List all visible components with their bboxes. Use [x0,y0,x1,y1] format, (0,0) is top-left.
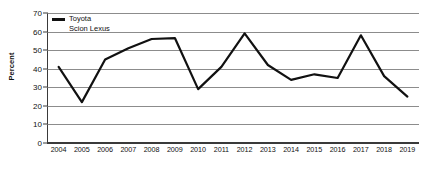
legend-label-line2: Scion Lexus [69,24,110,34]
y-tick-label: 0 [38,139,42,148]
x-tick-label: 2017 [353,145,369,154]
y-axis-title: Percent [7,37,16,97]
series-line [59,33,408,102]
x-tick-label: 2007 [120,145,136,154]
y-tick-label: 10 [33,120,42,129]
y-tick-label: 30 [33,83,42,92]
x-tick-label: 2015 [306,145,322,154]
x-tick-label: 2008 [144,145,160,154]
x-tick-label: 2006 [97,145,113,154]
legend-line-swatch-icon [52,18,65,21]
y-tick-label: 60 [33,27,42,36]
y-tick-label: 70 [33,9,42,18]
y-tick-label: 40 [33,64,42,73]
legend-label-line1: Toyota [69,14,110,24]
gridline [47,143,419,144]
x-tick-label: 2013 [260,145,276,154]
x-tick-label: 2016 [330,145,346,154]
legend-entry-label: Toyota Scion Lexus [69,14,110,33]
legend: Toyota Scion Lexus [52,14,110,33]
x-tick-label: 2005 [74,145,90,154]
x-tick-label: 2014 [283,145,299,154]
y-tick-label: 20 [33,101,42,110]
y-tick-label: 50 [33,46,42,55]
x-tick-label: 2019 [399,145,415,154]
x-tick-label: 2004 [51,145,67,154]
x-tick-label: 2018 [376,145,392,154]
x-tick-label: 2009 [167,145,183,154]
line-chart: Percent 706050403020100 2004200520062007… [0,0,436,169]
x-tick-label: 2012 [237,145,253,154]
x-tick-label: 2010 [190,145,206,154]
x-tick-label: 2011 [214,145,229,154]
